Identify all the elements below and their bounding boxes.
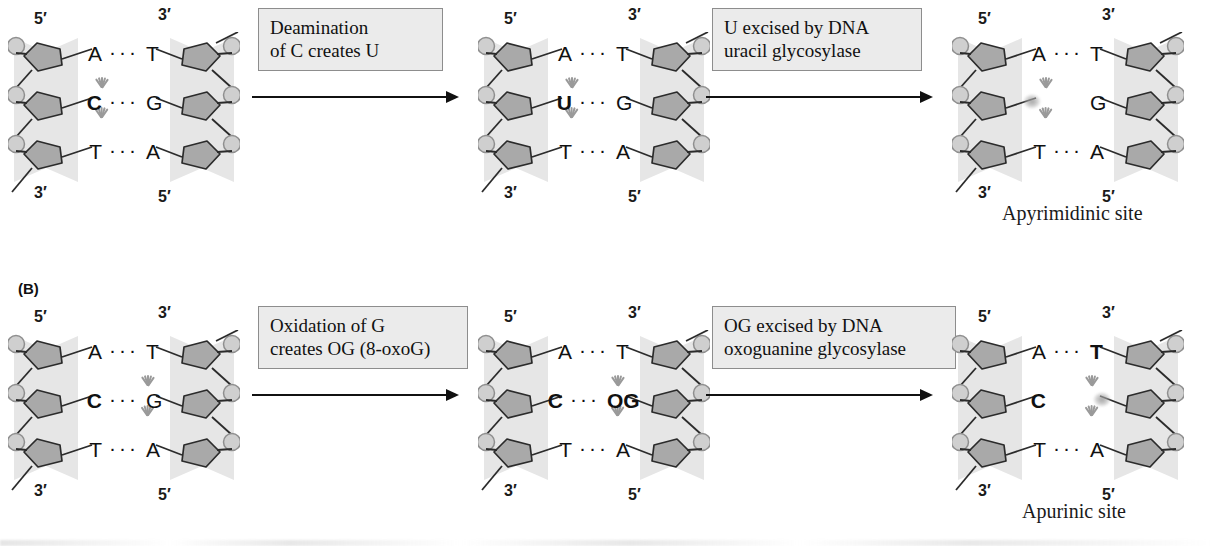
callout-b-step2: OG excised by DNA oxoguanine glycosylase (712, 306, 956, 369)
prime-label-left-top: 5′ (504, 10, 517, 28)
dna-strands (478, 32, 710, 194)
dna-strands (478, 330, 710, 492)
process-arrow (706, 394, 922, 396)
dna-strand-right (144, 330, 240, 496)
duplex-b2: 5′ 3′ 3′ 5′ A ··· T C ··· OG (478, 306, 710, 521)
panel-b-label: (B) (18, 280, 39, 297)
process-arrow (252, 96, 448, 98)
site-caption-apurinic: Apurinic site (1022, 500, 1126, 523)
dna-strands (8, 330, 240, 492)
process-arrow-head-icon (920, 389, 933, 401)
panel-b: (B) 5′ 3′ 3′ 5′ A ··· T C ··· G (0, 272, 1212, 532)
process-arrow-head-icon (446, 91, 459, 103)
prime-label-right-top: 3′ (628, 6, 641, 24)
prime-label-left-top: 5′ (978, 308, 991, 326)
prime-label-right-top: 3′ (158, 6, 171, 24)
process-arrow-head-icon (446, 389, 459, 401)
dna-strand-right (144, 32, 240, 198)
prime-label-left-top: 5′ (34, 10, 47, 28)
prime-label-left-top: 5′ (34, 308, 47, 326)
process-arrow (252, 394, 448, 396)
dna-strand-left (478, 330, 574, 496)
dna-strands (8, 32, 240, 194)
prime-label-left-top: 5′ (978, 10, 991, 28)
prime-label-left-top: 5′ (504, 308, 517, 326)
duplex-b1: 5′ 3′ 3′ 5′ A ··· T C ··· G (8, 306, 240, 521)
dna-strand-left (478, 32, 574, 198)
prime-label-right-top: 3′ (628, 304, 641, 322)
duplex-a1: 5′ 3′ 3′ 5′ A ··· T C ··· G (8, 8, 240, 223)
panel-a: 5′ 3′ 3′ 5′ A ··· T C ··· G (0, 0, 1212, 260)
duplex-a3: 5′ 3′ 3′ 5′ A ··· T G T (952, 8, 1184, 223)
dna-strands (952, 32, 1184, 194)
callout-a-step2: U excised by DNA uracil glycosylase (712, 8, 922, 71)
page-bottom-artifact (0, 540, 1212, 546)
duplex-b3: 5′ 3′ 3′ 5′ A ··· T C T (952, 306, 1184, 521)
prime-label-right-top: 3′ (1102, 6, 1115, 24)
dna-strand-left (952, 330, 1048, 496)
dna-strand-right (614, 32, 710, 198)
dna-strand-right (1088, 32, 1184, 198)
dna-strand-left (952, 32, 1048, 198)
dna-strand-right (1088, 330, 1184, 496)
dna-strand-left (8, 330, 104, 496)
dna-strand-left (8, 32, 104, 198)
dna-base-excision-repair-figure: 5′ 3′ 3′ 5′ A ··· T C ··· G (0, 0, 1212, 546)
dna-strands (952, 330, 1184, 492)
process-arrow (706, 96, 922, 98)
prime-label-right-top: 3′ (158, 304, 171, 322)
site-caption-apyrimidinic: Apyrimidinic site (1002, 202, 1143, 225)
callout-b-step1: Oxidation of G creates OG (8-oxoG) (258, 306, 468, 369)
dna-strand-right (614, 330, 710, 496)
process-arrow-head-icon (920, 91, 933, 103)
callout-a-step1: Deamination of C creates U (258, 8, 443, 71)
duplex-a2: 5′ 3′ 3′ 5′ A ··· T U ··· G (478, 8, 710, 223)
prime-label-right-top: 3′ (1102, 304, 1115, 322)
